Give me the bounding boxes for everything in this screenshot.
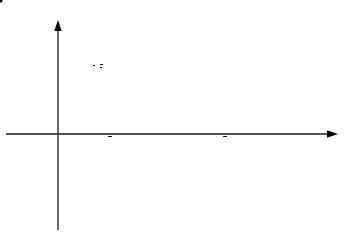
figure-canvas <box>0 0 361 240</box>
tick-denominator <box>108 136 112 139</box>
x-axis-arrowhead <box>327 130 338 137</box>
radicand <box>100 67 102 69</box>
x-tick-3pi-over-2 <box>223 135 227 139</box>
tick-denominator <box>223 136 227 139</box>
fraction-denominator <box>93 65 95 68</box>
intersection-point-label <box>90 62 105 69</box>
x-tick-pi-over-2 <box>108 135 112 139</box>
intersection-dot <box>0 0 3 3</box>
fraction-denominator <box>100 64 103 69</box>
plot-svg <box>0 0 361 240</box>
one-over-sqrt2-fraction <box>99 62 103 69</box>
y-axis-arrowhead <box>54 20 61 31</box>
pi-over-4-fraction <box>92 63 96 68</box>
